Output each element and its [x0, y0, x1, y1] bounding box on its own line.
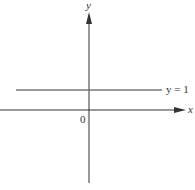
x-axis-label: x	[188, 104, 193, 115]
origin-label: 0	[80, 114, 86, 125]
x-axis-arrow-icon	[174, 107, 186, 113]
graph-figure: y x 0 y = 1	[0, 0, 195, 190]
y-axis-label: y	[86, 0, 91, 11]
graph-canvas	[0, 0, 195, 190]
y-axis-arrow-icon	[86, 12, 92, 24]
line-label-y-equals-1: y = 1	[166, 84, 189, 95]
